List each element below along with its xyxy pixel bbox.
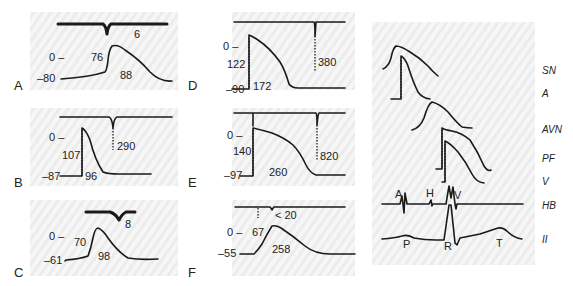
panel-a-delay-label: 6 (134, 28, 140, 40)
panel-f: 0 – –55 67 258 < 20 (218, 207, 355, 259)
panel-c-amplitude-label: 70 (74, 236, 86, 248)
avn-action-potential (412, 102, 472, 130)
panel-c: 0 – –61 70 98 8 (44, 212, 158, 266)
panel-c-delay-label: 8 (125, 218, 131, 230)
panel-f-amplitude-label: 67 (252, 226, 264, 238)
tissue-label-sn: SN (542, 65, 557, 76)
panel-e-resting-label: –97 (224, 169, 242, 181)
panel-b-zero-label: 0 – (49, 131, 65, 143)
panel-a-reference-trace (58, 24, 167, 34)
tissue-label-hb: HB (542, 200, 556, 211)
panel-f-zero-label: 0 – (227, 226, 243, 238)
panel-f-duration-label: 258 (272, 243, 290, 255)
panel-d: 0 – –90 122 172 380 (223, 22, 345, 95)
diagram-canvas: 0 – –80 76 88 6 0 – –87 107 96 290 0 – –… (0, 0, 573, 286)
panel-d-reference-trace (234, 22, 345, 36)
panel-d-zero-label: 0 – (223, 40, 239, 52)
ecg-wave-label-t: T (496, 237, 503, 249)
tissue-label-ii: II (542, 234, 548, 245)
panel-e: 0 – –97 140 260 820 (224, 113, 345, 181)
panel-b-delay-label: 290 (117, 140, 135, 152)
panel-b-resting-label: –87 (42, 170, 60, 182)
panel-e-reference-trace (234, 113, 345, 126)
ecg-wave-label-r: R (444, 240, 452, 252)
panel-d-resting-label: –90 (226, 83, 244, 95)
panel-e-delay-label: 820 (320, 150, 338, 162)
tissue-label-v: V (542, 176, 550, 187)
panel-c-zero-label: 0 – (49, 230, 65, 242)
panel-a-resting-label: –80 (37, 72, 55, 84)
panel-a-duration-label: 88 (120, 69, 132, 81)
tissue-label-a: A (541, 88, 549, 99)
panel-d-delay-label: 380 (318, 56, 336, 68)
hb-wave-label-a: A (395, 188, 403, 200)
panel-b-duration-label: 96 (85, 170, 97, 182)
ecg-wave-label-p: P (403, 238, 410, 250)
panel-d-amplitude-label: 122 (227, 58, 245, 70)
hb-wave-label-v: V (454, 189, 462, 201)
panel-e-amplitude-label: 140 (233, 145, 251, 157)
his-bundle-electrogram (382, 186, 523, 213)
panel-a: 0 – –80 76 88 6 (37, 24, 172, 84)
tissue-label-pf: PF (542, 153, 556, 164)
tissue-label-avn: AVN (541, 124, 563, 135)
panel-a-amplitude-label: 76 (91, 51, 103, 63)
panel-d-duration-label: 172 (253, 80, 271, 92)
panel-e-duration-label: 260 (269, 166, 287, 178)
right-panel: A H V P R T SN A AVN PF V HB II (382, 46, 563, 252)
panel-a-action-potential (61, 46, 172, 82)
panel-b: 0 – –87 107 96 290 (42, 117, 172, 182)
panel-f-resting-label: –55 (218, 247, 236, 259)
panel-b-amplitude-label: 107 (62, 149, 80, 161)
panel-f-delay-label: < 20 (275, 209, 297, 221)
panel-e-zero-label: 0 – (227, 129, 243, 141)
panel-b-reference-trace (60, 117, 172, 128)
ventricular-action-potential (442, 141, 484, 183)
panel-c-resting-label: –61 (44, 254, 62, 266)
panel-c-duration-label: 98 (98, 250, 110, 262)
panel-a-zero-label: 0 – (49, 51, 65, 63)
hb-wave-label-h: H (426, 187, 434, 199)
